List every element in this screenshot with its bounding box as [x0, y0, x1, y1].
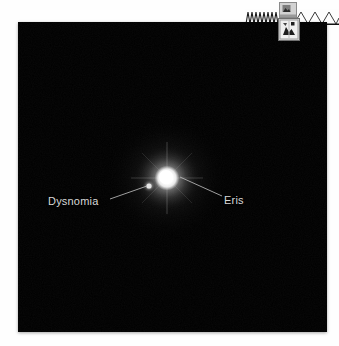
broken-image-icon[interactable]: [278, 18, 300, 41]
dysnomia-object: [142, 179, 156, 193]
page-canvas: Dysnomia Eris: [0, 0, 339, 346]
broken-image-icon-small[interactable]: [279, 2, 297, 18]
broken-image-glyph: [280, 3, 296, 17]
eris-object: [105, 116, 229, 240]
label-eris: Eris: [224, 195, 244, 206]
label-dysnomia: Dysnomia: [48, 196, 99, 207]
astro-image-canvas: [18, 22, 327, 332]
eris-dysnomia-telescope-image: Dysnomia Eris: [18, 22, 327, 332]
broken-image-glyph: [279, 19, 299, 40]
